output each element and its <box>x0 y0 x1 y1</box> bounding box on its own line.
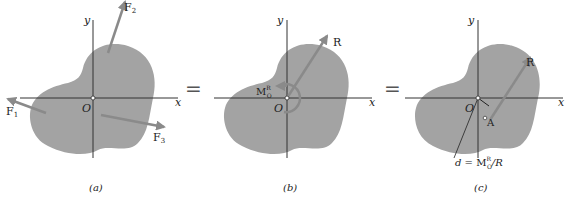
panel-c <box>405 20 563 158</box>
y-axis-label-b: y <box>276 14 284 27</box>
distance-formula: d = MRO/R <box>455 155 503 170</box>
x-axis-label-b: x <box>369 96 376 109</box>
force-f3-label: F3 <box>153 131 165 145</box>
origin-point <box>285 96 289 100</box>
diagram-canvas: y x O F1 F2 F3 (a) = y x O R MRO (b) = y… <box>0 0 569 198</box>
origin-point <box>91 96 95 100</box>
x-axis-label-c: x <box>558 96 565 109</box>
origin-label-b: O <box>274 102 283 115</box>
force-f2-label: F2 <box>124 1 136 15</box>
resultant-r-label-b: R <box>333 36 342 49</box>
y-axis-label-c: y <box>467 14 475 27</box>
origin-label-c: O <box>465 102 474 115</box>
force-f1-label: F1 <box>6 105 18 119</box>
equals-sign-2: = <box>384 76 401 100</box>
caption-c: (c) <box>474 182 488 193</box>
point-a-label: A <box>486 117 495 128</box>
moment-label: MRO <box>256 84 272 99</box>
panel-b <box>214 20 372 158</box>
origin-label-a: O <box>82 102 91 115</box>
y-axis-label-a: y <box>83 14 91 27</box>
origin-point <box>476 96 480 100</box>
caption-b: (b) <box>283 182 297 193</box>
resultant-r-label-c: R <box>526 56 535 69</box>
x-axis-label-a: x <box>175 96 182 109</box>
equals-sign-1: = <box>185 76 202 100</box>
caption-a: (a) <box>89 182 103 193</box>
